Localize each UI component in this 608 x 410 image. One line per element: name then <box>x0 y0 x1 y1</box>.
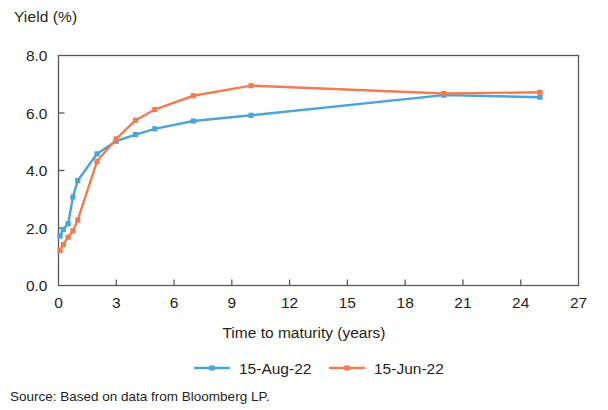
data-point-marker <box>70 228 75 233</box>
data-point-marker <box>133 132 138 137</box>
x-tick-label: 24 <box>512 294 530 311</box>
x-tick-label: 6 <box>170 294 179 311</box>
data-point-marker <box>75 217 80 222</box>
data-point-marker <box>61 227 66 232</box>
chart-plot-area: 0.02.04.06.08.0 0369121518212427 Time to… <box>0 0 608 410</box>
legend-swatch-marker <box>344 365 349 370</box>
yield-curve-chart: Yield (%) 0.02.04.06.08.0 03691215182124… <box>0 0 608 410</box>
x-tick-label: 27 <box>570 294 587 311</box>
data-point-marker <box>191 93 196 98</box>
x-tick-label: 18 <box>397 294 414 311</box>
data-point-marker <box>133 118 138 123</box>
x-tick-label: 0 <box>54 294 63 311</box>
data-point-marker <box>57 233 62 238</box>
data-point-marker <box>441 91 446 96</box>
legend-swatch-marker <box>209 365 214 370</box>
data-point-marker <box>152 107 157 112</box>
data-point-marker <box>248 83 253 88</box>
y-tick-label: 6.0 <box>26 105 48 122</box>
y-tick-label: 0.0 <box>26 277 48 294</box>
data-point-marker <box>114 136 119 141</box>
y-tick-label: 4.0 <box>26 162 48 179</box>
data-point-marker <box>70 194 75 199</box>
data-point-marker <box>152 126 157 131</box>
legend-item-15-Aug-22: 15-Aug-22 <box>195 360 311 377</box>
data-point-marker <box>537 95 542 100</box>
plot-frame <box>59 56 579 286</box>
data-point-marker <box>75 178 80 183</box>
x-tick-label: 21 <box>454 294 471 311</box>
x-axis-tick-labels: 0369121518212427 <box>54 294 587 311</box>
legend-label: 15-Jun-22 <box>374 360 444 377</box>
legend-item-15-Jun-22: 15-Jun-22 <box>330 360 444 377</box>
data-point-marker <box>94 159 99 164</box>
y-axis-tick-labels: 0.02.04.06.08.0 <box>26 47 48 294</box>
x-tick-label: 3 <box>112 294 121 311</box>
source-note: Source: Based on data from Bloomberg LP. <box>10 389 269 404</box>
data-point-marker <box>66 221 71 226</box>
legend-label: 15-Aug-22 <box>239 360 311 377</box>
data-point-marker <box>94 151 99 156</box>
chart-legend: 15-Aug-2215-Jun-22 <box>195 360 444 377</box>
data-point-marker <box>248 113 253 118</box>
x-tick-label: 15 <box>339 294 356 311</box>
x-tick-label: 9 <box>228 294 237 311</box>
data-point-marker <box>66 235 71 240</box>
data-point-marker <box>57 248 62 253</box>
y-tick-label: 2.0 <box>26 220 48 237</box>
data-point-marker <box>537 90 542 95</box>
x-tick-label: 12 <box>281 294 298 311</box>
y-tick-label: 8.0 <box>26 47 48 64</box>
data-point-marker <box>191 118 196 123</box>
x-axis-title: Time to maturity (years) <box>222 324 385 341</box>
data-point-marker <box>61 242 66 247</box>
